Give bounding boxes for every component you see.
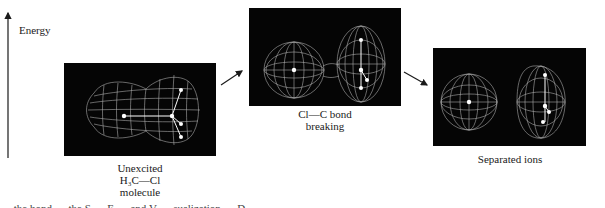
wireframe-peanut-icon bbox=[64, 63, 216, 156]
separated-ions-caption: Separated ions bbox=[450, 153, 570, 165]
separated-ions-image bbox=[433, 48, 586, 146]
caption-line: Separated ions bbox=[450, 153, 570, 165]
wireframe-separated-ions-icon bbox=[433, 48, 586, 146]
unexcited-caption: Unexcited H₃C—Cl molecule bbox=[90, 162, 190, 198]
arrow-down-right-icon bbox=[404, 72, 427, 85]
arrow-up-right-icon bbox=[221, 71, 242, 85]
caption-line: H₃C—Cl bbox=[90, 174, 190, 186]
caption-line: Unexcited bbox=[90, 162, 190, 174]
bond-breaking-image bbox=[249, 8, 401, 106]
caption-line: Cl—C bond bbox=[270, 108, 380, 120]
bond-breaking-caption: Cl—C bond breaking bbox=[270, 108, 380, 132]
figure-caption-partial: … the bond … the S … E … and V … sualiza… bbox=[0, 202, 605, 208]
wireframe-dumbbell-icon bbox=[249, 8, 401, 106]
caption-line: molecule bbox=[90, 186, 190, 198]
energy-axis-label: Energy bbox=[19, 24, 51, 36]
unexcited-molecule-image bbox=[64, 63, 216, 156]
caption-line: breaking bbox=[270, 120, 380, 132]
